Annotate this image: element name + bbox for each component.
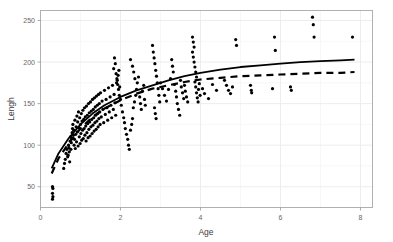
x-tick-label: 0 (39, 214, 43, 221)
y-tick-label: 50 (27, 183, 35, 190)
y-tick-label: 250 (23, 17, 35, 24)
y-axis-title: Lengh (6, 97, 16, 121)
x-tick-label: 2 (119, 214, 123, 221)
scatter-plot-svg: 02468 50100150200250 Age Lengh (0, 0, 393, 242)
y-tick-label: 200 (23, 59, 35, 66)
chart-figure: 02468 50100150200250 Age Lengh (0, 0, 393, 242)
x-tick-label: 6 (279, 214, 283, 221)
y-tick-label: 150 (23, 100, 35, 107)
panel-background (41, 11, 373, 208)
y-tick-label: 100 (23, 142, 35, 149)
x-tick-label: 8 (359, 214, 363, 221)
x-tick-label: 4 (199, 214, 203, 221)
x-axis-title: Age (198, 227, 213, 237)
